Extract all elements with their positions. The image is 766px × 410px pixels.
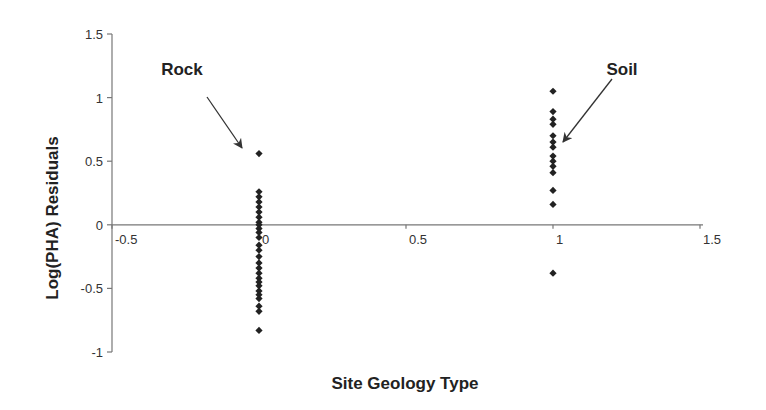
y-tick-label: -0.5	[81, 281, 103, 296]
y-tick-label: 1.5	[85, 27, 103, 42]
data-point-soil	[549, 201, 556, 208]
x-tick-label: 1.5	[703, 232, 721, 247]
data-point-soil	[549, 169, 556, 176]
data-point-rock	[255, 247, 262, 254]
y-tick-label: 0	[96, 218, 103, 233]
y-axis-title: Log(PHA) Residuals	[43, 136, 62, 299]
rock-annotation-label: Rock	[161, 60, 203, 79]
data-point-soil	[549, 163, 556, 170]
data-point-soil	[549, 121, 556, 128]
rock-arrow-icon	[207, 97, 242, 148]
scatter-chart: -1-0.500.511.5 -0.500.511.5 RockSoil Sit…	[0, 0, 766, 410]
soil-annotation-label: Soil	[606, 60, 637, 79]
soil-arrow-icon	[563, 79, 612, 142]
x-tick-label: -0.5	[115, 232, 137, 247]
y-tick-label: 1	[96, 91, 103, 106]
x-tick-label: 0.5	[409, 232, 427, 247]
data-point-rock	[255, 150, 262, 157]
data-point-soil	[549, 144, 556, 151]
data-point-soil	[549, 187, 556, 194]
data-point-soil	[549, 270, 556, 277]
data-point-rock	[255, 253, 262, 260]
x-axis-title: Site Geology Type	[331, 374, 478, 393]
data-point-rock	[255, 308, 262, 315]
data-point-rock	[255, 295, 262, 302]
y-tick-label: -1	[91, 345, 103, 360]
x-axis: -0.500.511.5	[112, 225, 721, 247]
data-point-soil	[549, 108, 556, 115]
data-points	[255, 88, 556, 334]
y-tick-label: 0.5	[85, 154, 103, 169]
x-tick-label: 0	[262, 232, 269, 247]
data-point-soil	[549, 132, 556, 139]
y-axis: -1-0.500.511.5	[81, 27, 112, 360]
data-point-rock	[255, 327, 262, 334]
annotations: RockSoil	[161, 60, 637, 148]
x-tick-label: 1	[556, 232, 563, 247]
data-point-soil	[549, 88, 556, 95]
